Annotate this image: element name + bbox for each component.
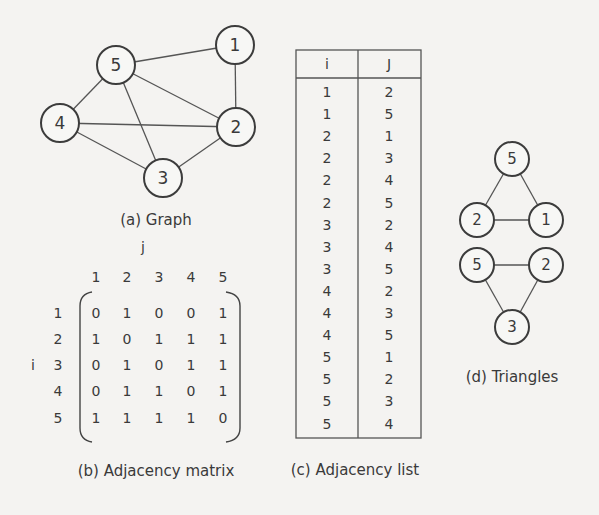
adjlist-cell-i: 3 [323, 239, 332, 255]
matrix-cell: 1 [187, 410, 196, 426]
matrix-cell: 0 [187, 383, 196, 399]
matrix-col-header: 3 [155, 269, 164, 285]
adjlist-cell-j: 2 [385, 283, 394, 299]
adjlist-cell-j: 4 [385, 172, 394, 188]
adjlist-cell-i: 3 [323, 217, 332, 233]
matrix-cell: 1 [92, 331, 101, 347]
matrix-cell: 1 [219, 331, 228, 347]
matrix-row-axis-label: i [31, 357, 35, 373]
graph-node: 3 [495, 310, 529, 344]
matrix-cell: 0 [155, 357, 164, 373]
matrix-cell: 1 [219, 305, 228, 321]
matrix-right-bracket [226, 292, 240, 442]
matrix-row-header: 5 [54, 410, 63, 426]
matrix-row-header: 1 [54, 305, 63, 321]
node-label: 2 [231, 117, 242, 137]
adjlist-cell-j: 1 [385, 128, 394, 144]
matrix-row-header: 2 [54, 331, 63, 347]
matrix-col-header: 4 [187, 269, 196, 285]
node-label: 3 [507, 318, 517, 336]
adjlist-cell-i: 1 [323, 84, 332, 100]
matrix-cell: 1 [123, 383, 132, 399]
adjlist-cell-i: 2 [323, 195, 332, 211]
graph-node: 1 [529, 203, 563, 237]
matrix-row-header: 4 [54, 383, 63, 399]
adjlist-cell-j: 3 [385, 393, 394, 409]
adjlist-cell-i: 5 [323, 371, 332, 387]
matrix-col-header: 5 [219, 269, 228, 285]
matrix-cell: 1 [187, 357, 196, 373]
node-label: 4 [55, 113, 66, 133]
matrix-cell: 0 [92, 357, 101, 373]
graph-node: 5 [97, 46, 135, 84]
adjlist-cell-j: 3 [385, 150, 394, 166]
matrix-cell: 1 [123, 357, 132, 373]
matrix-cell: 1 [219, 357, 228, 373]
adjlist-cell-j: 3 [385, 305, 394, 321]
graph-node: 5 [460, 248, 494, 282]
matrix-cell: 0 [219, 410, 228, 426]
matrix-cell: 0 [155, 305, 164, 321]
node-label: 2 [472, 211, 482, 229]
adjlist-cell-i: 4 [323, 283, 332, 299]
graph-node: 2 [217, 108, 255, 146]
graph-node: 4 [41, 104, 79, 142]
matrix-cell: 1 [123, 410, 132, 426]
adjlist-cell-j: 5 [385, 195, 394, 211]
matrix-caption: (b) Adjacency matrix [78, 462, 235, 480]
adjlist-cell-i: 2 [323, 172, 332, 188]
adjlist-cell-j: 4 [385, 416, 394, 432]
node-label: 3 [158, 168, 169, 188]
node-label: 2 [541, 256, 551, 274]
adjlist-cell-j: 1 [385, 349, 394, 365]
graph-edge [116, 65, 236, 127]
graph-edges [60, 45, 236, 178]
adjlist-cell-j: 2 [385, 84, 394, 100]
adjlist-cell-i: 5 [323, 416, 332, 432]
matrix-cell: 1 [92, 410, 101, 426]
node-label: 1 [230, 35, 241, 55]
adjlist-cell-i: 2 [323, 150, 332, 166]
adjlist-cell-j: 5 [385, 106, 394, 122]
graph-caption: (a) Graph [120, 211, 192, 229]
matrix-cell: 1 [123, 305, 132, 321]
adjlist-cell-i: 5 [323, 393, 332, 409]
matrix-col-axis-label: j [140, 239, 145, 255]
adjlist-caption: (c) Adjacency list [291, 461, 420, 479]
node-label: 1 [541, 211, 551, 229]
adjlist-cell-i: 3 [323, 261, 332, 277]
node-label: 5 [507, 150, 517, 168]
adjlist-cell-i: 5 [323, 349, 332, 365]
matrix-cell: 1 [155, 410, 164, 426]
adjlist-cell-i: 2 [323, 128, 332, 144]
graph-edge [60, 123, 236, 127]
matrix-cell: 0 [187, 305, 196, 321]
matrix-cell: 0 [92, 305, 101, 321]
adjlist-cell-j: 4 [385, 239, 394, 255]
graph-nodes: 12345 [41, 26, 255, 197]
adjlist-cell-j: 5 [385, 327, 394, 343]
adjlist-cell-i: 4 [323, 305, 332, 321]
node-label: 5 [472, 256, 482, 274]
triangles-caption: (d) Triangles [466, 368, 559, 386]
adjlist-cell-j: 2 [385, 217, 394, 233]
adjlist-header-j: J [386, 56, 391, 72]
matrix-cell: 1 [155, 383, 164, 399]
matrix-cell: 1 [219, 383, 228, 399]
adjlist-cell-i: 4 [323, 327, 332, 343]
node-label: 5 [111, 55, 122, 75]
graph-node: 2 [460, 203, 494, 237]
matrix-row-header: 3 [54, 357, 63, 373]
matrix-cell: 0 [123, 331, 132, 347]
matrix-col-header: 1 [92, 269, 101, 285]
matrix-left-bracket [80, 292, 92, 442]
figure-canvas: 12345 (a) Graph j i 12345123450100110111… [0, 0, 599, 515]
adjlist-header-i: i [325, 56, 329, 72]
matrix-col-header: 2 [123, 269, 132, 285]
adjlist-cell-i: 1 [323, 106, 332, 122]
matrix-cell: 1 [155, 331, 164, 347]
adjlist-cell-j: 5 [385, 261, 394, 277]
graph-node: 2 [529, 248, 563, 282]
triangle-edges [477, 159, 546, 327]
graph-node: 5 [495, 142, 529, 176]
